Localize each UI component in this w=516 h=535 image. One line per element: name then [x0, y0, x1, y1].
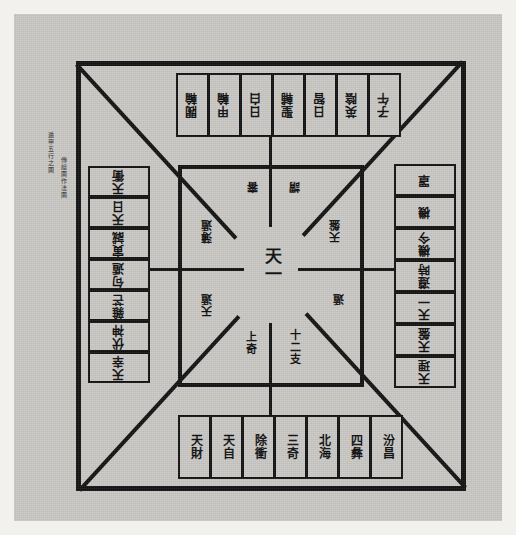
center-label-lower-right: 十二支: [288, 329, 301, 365]
right-cell-4-label: 遵時: [419, 263, 432, 289]
frame-edge-top: [76, 61, 466, 66]
right-cell-4[interactable]: 遵時: [394, 260, 456, 292]
top-cell-6-label: 英陰: [346, 92, 359, 118]
right-cell-3-label: 機今: [419, 231, 432, 257]
left-cell-4-label: 句遁: [113, 262, 126, 288]
connector-top: [269, 137, 272, 167]
bottom-cell-6[interactable]: 四彝: [338, 415, 371, 479]
top-cell-5-label: 日智: [314, 92, 327, 118]
left-cell-2[interactable]: 天日: [88, 197, 150, 228]
frame-edge-bottom: [76, 486, 466, 491]
left-cell-6-label: 伏神: [113, 324, 126, 350]
bottom-cell-5-label: 北海: [316, 434, 329, 460]
top-cell-4-label: 聖輔: [282, 92, 295, 118]
inner-square-left: [178, 165, 182, 387]
left-cell-7-label: 天幸: [113, 355, 126, 381]
center-cross-stub-left: [182, 268, 244, 271]
bottom-cell-7[interactable]: 汾昌: [370, 415, 403, 479]
bottom-cell-3[interactable]: 除衝: [242, 415, 275, 479]
right-cell-3[interactable]: 機今: [394, 228, 456, 260]
center-label-mid-upper-left: 薄遁: [200, 219, 216, 243]
top-cell-2-label: 甲輪: [218, 92, 231, 118]
left-cell-2-label: 天日: [113, 200, 126, 226]
left-cell-5-label: 雜芒: [113, 293, 126, 319]
right-cell-5-label: 天一: [419, 295, 432, 321]
left-cell-6[interactable]: 伏神: [88, 321, 150, 352]
connector-left: [150, 268, 182, 271]
right-cell-1-label: 罩: [419, 174, 432, 187]
right-cell-7-label: 天理: [419, 359, 432, 385]
right-cell-2[interactable]: 機: [394, 196, 456, 228]
frame-edge-right: [461, 61, 466, 491]
top-cell-3[interactable]: 日白: [240, 73, 273, 137]
left-cell-4[interactable]: 句遁: [88, 259, 150, 290]
right-cell-1[interactable]: 罩: [394, 164, 456, 196]
bottom-cell-1[interactable]: 天財: [178, 415, 211, 479]
center-label-mid-lower-right: 遁: [332, 293, 348, 305]
bottom-cell-strip: 天財 天自 除衝 三奇 北海 四彝 汾昌: [178, 415, 405, 479]
top-cell-6[interactable]: 英陰: [336, 73, 369, 137]
center-label-lower-left: 上奇: [244, 331, 257, 355]
top-cell-1[interactable]: 閥輪: [176, 73, 209, 137]
bottom-cell-4-label: 三奇: [284, 434, 297, 460]
center-cross-stub-right: [298, 268, 362, 271]
paper-surface: 遁甲五行之圖 傳繪圖作法圖: [14, 14, 502, 521]
bottom-cell-7-label: 汾昌: [380, 434, 393, 460]
bottom-cell-2-label: 天自: [220, 434, 233, 460]
connector-bottom: [269, 385, 272, 415]
top-cell-2[interactable]: 甲輪: [208, 73, 241, 137]
left-cell-stack: 天衝 天日 寅誠 句遁 雜芒 伏神 天幸: [88, 166, 150, 384]
bottom-cell-5[interactable]: 北海: [306, 415, 339, 479]
diagram-frame: 天一 審 謂 薄遁 天盤 天遁 遁 上奇 十二支 閥輪 甲輪 日白 聖輔 日智 …: [76, 61, 466, 491]
center-main-label: 天一: [262, 247, 281, 283]
caption-line-1: 遁甲五行之圖: [47, 132, 54, 174]
top-cell-3-label: 日白: [250, 92, 263, 118]
left-cell-1[interactable]: 天衝: [88, 166, 150, 197]
left-cell-5[interactable]: 雜芒: [88, 290, 150, 321]
center-cross-stub-bottom: [269, 323, 272, 387]
top-cell-strip: 閥輪 甲輪 日白 聖輔 日智 英陰 子午: [176, 73, 403, 137]
top-cell-7-label: 子午: [378, 92, 391, 118]
top-cell-4[interactable]: 聖輔: [272, 73, 305, 137]
frame-edge-left: [76, 61, 81, 491]
center-cross-stub-top: [269, 165, 272, 227]
bottom-cell-2[interactable]: 天自: [210, 415, 243, 479]
bottom-cell-6-label: 四彝: [348, 434, 361, 460]
right-cell-5[interactable]: 天一: [394, 292, 456, 324]
left-cell-3[interactable]: 寅誠: [88, 228, 150, 259]
right-cell-stack: 罩 機 機今 遵時 天一 天盤 天理: [394, 164, 456, 388]
top-cell-1-label: 閥輪: [186, 92, 199, 118]
left-cell-7[interactable]: 天幸: [88, 352, 150, 383]
inner-square-right: [360, 165, 364, 387]
center-label-mid-upper-right: 天盤: [328, 219, 344, 243]
bottom-cell-3-label: 除衝: [252, 434, 265, 460]
left-cell-3-label: 寅誠: [113, 231, 126, 257]
center-label-mid-lower-left: 天遁: [200, 293, 216, 317]
center-label-upper-right: 謂: [288, 181, 304, 193]
right-cell-6[interactable]: 天盤: [394, 324, 456, 356]
connector-right: [362, 268, 394, 271]
scanned-page: 遁甲五行之圖 傳繪圖作法圖: [0, 0, 516, 535]
top-cell-7[interactable]: 子午: [368, 73, 401, 137]
right-cell-7[interactable]: 天理: [394, 356, 456, 388]
bottom-cell-4[interactable]: 三奇: [274, 415, 307, 479]
right-cell-2-label: 機: [419, 206, 432, 219]
left-cell-1-label: 天衝: [113, 169, 126, 195]
top-cell-5[interactable]: 日智: [304, 73, 337, 137]
bottom-cell-1-label: 天財: [188, 434, 201, 460]
caption-line-2: 傳繪圖作法圖: [60, 157, 67, 199]
right-cell-6-label: 天盤: [419, 327, 432, 353]
center-label-upper-left: 審: [246, 181, 262, 193]
